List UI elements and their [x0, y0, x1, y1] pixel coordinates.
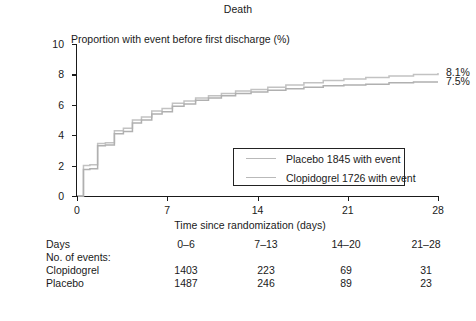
y-tick-label: 10 — [52, 38, 64, 50]
table-cell-placebo-2: 89 — [306, 277, 386, 290]
table-col-header-3: 21–28 — [386, 238, 466, 251]
legend-label-clopidogrel: Clopidogrel 1726 with event — [286, 172, 416, 184]
chart-legend: Placebo 1845 with event Clopidogrel 1726… — [233, 148, 405, 186]
y-tick-label: 4 — [58, 129, 64, 141]
table-row-label-clopidogrel: Clopidogrel — [46, 264, 146, 277]
y-tick: 6 — [72, 105, 77, 106]
endpoint-label-clopidogrel: 7.5% — [446, 75, 470, 87]
table-row-header: Days 0–6 7–13 14–20 21–28 — [46, 238, 466, 251]
y-tick-label: 2 — [58, 160, 64, 172]
x-tick: 0 — [77, 196, 78, 201]
table-header-label: Days — [46, 238, 146, 251]
x-tick-label: 7 — [164, 204, 170, 216]
numbers-at-risk-table: Days 0–6 7–13 14–20 21–28 No. of events:… — [46, 238, 466, 290]
chart-title: Death — [0, 3, 476, 15]
x-axis-label: Time since randomization (days) — [0, 219, 476, 231]
y-tick-label: 8 — [58, 68, 64, 80]
table-cell-clopidogrel-3: 31 — [386, 264, 466, 277]
legend-label-placebo: Placebo 1845 with event — [286, 153, 400, 165]
table-cell-clopidogrel-1: 223 — [226, 264, 306, 277]
legend-swatch-clopidogrel — [246, 177, 276, 178]
x-tick-label: 28 — [432, 204, 444, 216]
x-tick-label: 0 — [74, 204, 80, 216]
table-row-label-placebo: Placebo — [46, 277, 146, 290]
table-col-header-2: 14–20 — [306, 238, 386, 251]
table-cell-placebo-0: 1487 — [146, 277, 226, 290]
table-row: Clopidogrel 1403 223 69 31 — [46, 264, 466, 277]
table-section-label: No. of events: — [46, 251, 146, 264]
legend-swatch-placebo — [246, 158, 276, 159]
y-tick: 2 — [72, 166, 77, 167]
table-col-header-0: 0–6 — [146, 238, 226, 251]
x-tick-label: 14 — [252, 204, 264, 216]
table-row-section: No. of events: — [46, 251, 466, 264]
table-cell-clopidogrel-0: 1403 — [146, 264, 226, 277]
table-cell-placebo-1: 246 — [226, 277, 306, 290]
table-cell-clopidogrel-2: 69 — [306, 264, 386, 277]
x-tick-label: 21 — [342, 204, 354, 216]
x-tick: 28 — [438, 196, 439, 201]
legend-item-clopidogrel: Clopidogrel 1726 with event — [234, 168, 404, 187]
legend-item-placebo: Placebo 1845 with event — [234, 149, 404, 168]
table-col-header-1: 7–13 — [226, 238, 306, 251]
x-tick: 7 — [167, 196, 168, 201]
table-cell-placebo-3: 23 — [386, 277, 466, 290]
x-tick: 14 — [258, 196, 259, 201]
x-tick: 21 — [348, 196, 349, 201]
y-tick: 8 — [72, 74, 77, 75]
y-tick: 10 — [72, 44, 77, 45]
y-tick-label: 0 — [58, 190, 64, 202]
y-tick-label: 6 — [58, 99, 64, 111]
y-tick: 4 — [72, 135, 77, 136]
table-row: Placebo 1487 246 89 23 — [46, 277, 466, 290]
